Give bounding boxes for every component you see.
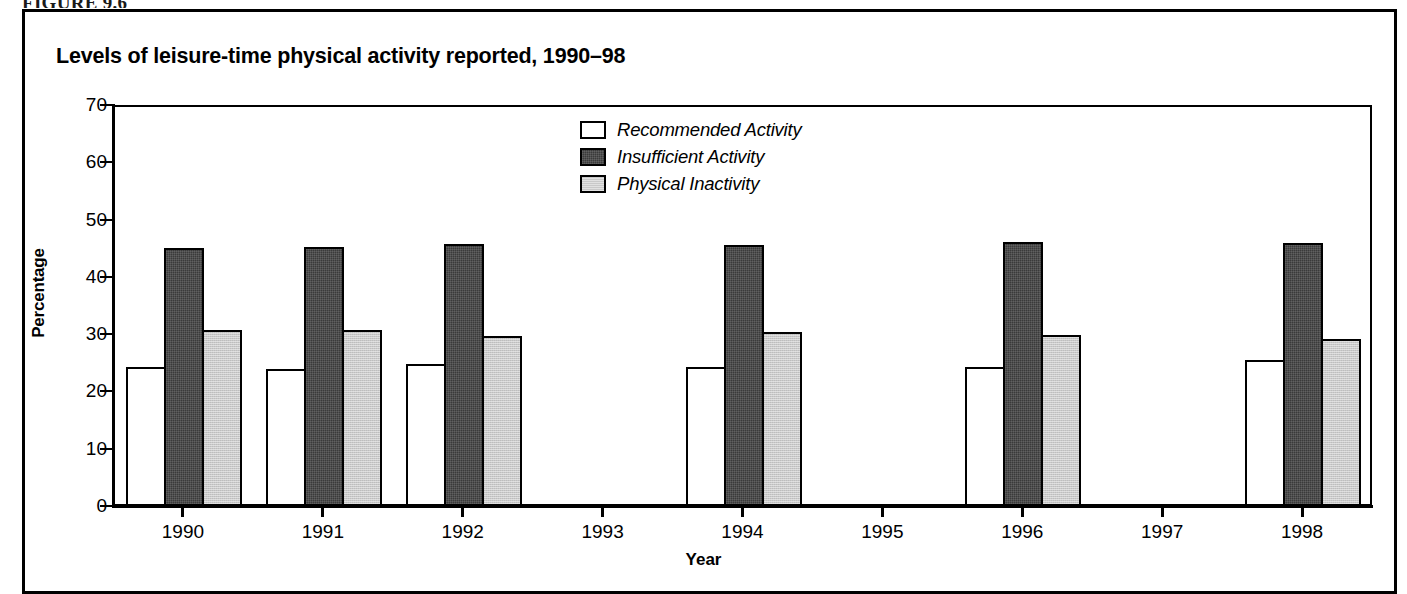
- legend-label: Insufficient Activity: [617, 146, 764, 168]
- bar: [266, 369, 306, 506]
- y-tick-label: 40: [61, 266, 107, 288]
- x-tick-label: 1992: [408, 521, 518, 543]
- bar: [762, 332, 802, 506]
- figure-caption: FIGURE 9.6: [22, 0, 127, 8]
- bar: [1321, 339, 1361, 506]
- bar: [342, 330, 382, 506]
- bar: [686, 367, 726, 506]
- x-tick-mark: [1301, 506, 1304, 517]
- x-tick-label: 1990: [128, 521, 238, 543]
- x-tick-label: 1991: [268, 521, 378, 543]
- x-tick-label: 1996: [967, 521, 1077, 543]
- legend-swatch: [580, 175, 606, 193]
- x-tick-mark: [881, 506, 884, 517]
- y-tick-label: 20: [61, 380, 107, 402]
- bar: [965, 367, 1005, 506]
- bar: [1003, 242, 1043, 506]
- y-tick-label: 10: [61, 438, 107, 460]
- legend-label: Physical Inactivity: [617, 173, 759, 195]
- bar: [304, 247, 344, 506]
- legend-swatch: [580, 148, 606, 166]
- y-tick-label: 70: [61, 94, 107, 116]
- y-tick-label: 30: [61, 323, 107, 345]
- bar: [164, 248, 204, 506]
- x-tick-label: 1998: [1247, 521, 1357, 543]
- y-tick-label: 0: [61, 495, 107, 517]
- legend-item: Insufficient Activity: [580, 145, 802, 169]
- chart-legend: Recommended ActivityInsufficient Activit…: [580, 118, 802, 199]
- legend-item: Physical Inactivity: [580, 172, 802, 196]
- legend-item: Recommended Activity: [580, 118, 802, 142]
- bar: [1041, 335, 1081, 506]
- x-tick-mark: [181, 506, 184, 517]
- bar: [1245, 360, 1285, 506]
- bar: [482, 336, 522, 506]
- y-axis-title: Percentage: [29, 233, 49, 353]
- legend-swatch: [580, 121, 606, 139]
- bar: [406, 364, 446, 506]
- x-tick-mark: [1161, 506, 1164, 517]
- bar: [202, 330, 242, 506]
- y-tick-label: 60: [61, 151, 107, 173]
- x-tick-label: 1995: [827, 521, 937, 543]
- bar: [1283, 243, 1323, 506]
- y-tick-label: 50: [61, 209, 107, 231]
- bar: [126, 367, 166, 506]
- x-axis-title: Year: [0, 550, 1407, 570]
- x-tick-mark: [741, 506, 744, 517]
- x-tick-mark: [1021, 506, 1024, 517]
- legend-label: Recommended Activity: [617, 119, 802, 141]
- x-tick-mark: [601, 506, 604, 517]
- chart-title: Levels of leisure-time physical activity…: [56, 44, 625, 69]
- x-tick-mark: [321, 506, 324, 517]
- x-tick-label: 1997: [1107, 521, 1217, 543]
- bar: [724, 245, 764, 506]
- bar: [444, 244, 484, 506]
- x-tick-mark: [461, 506, 464, 517]
- x-tick-label: 1993: [548, 521, 658, 543]
- x-tick-label: 1994: [688, 521, 798, 543]
